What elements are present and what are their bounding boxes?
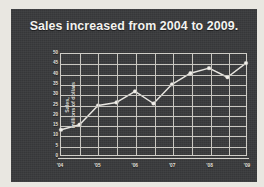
y-axis-tick-label: 20: [53, 113, 58, 118]
grid-line-horizontal: [61, 126, 246, 127]
grid-line-horizontal: [61, 95, 246, 96]
grid-line-vertical: [98, 54, 99, 155]
x-axis-tick-label: '05: [94, 163, 100, 168]
grid-line-vertical: [155, 54, 156, 155]
grid-line-horizontal: [61, 85, 246, 86]
grid-line-horizontal: [61, 136, 246, 137]
grid-line-horizontal: [61, 116, 246, 117]
y-axis-tick-label: 15: [53, 123, 58, 128]
x-axis-tick-label: '06: [132, 163, 138, 168]
line-chart: Sales, millions of dollars 5045403530252…: [60, 53, 247, 156]
y-axis-tick-label: 35: [53, 82, 58, 87]
y-axis-tick-label: 10: [53, 133, 58, 138]
x-axis-tick-label: '04: [57, 163, 63, 168]
y-axis-tick-labels: 50454035302520151050: [45, 53, 58, 156]
x-axis-tick-label: '08: [206, 163, 212, 168]
slide-title: Sales increased from 2004 to 2009.: [11, 19, 257, 33]
y-axis-tick-label: 5: [55, 143, 58, 148]
slide-panel: Sales increased from 2004 to 2009. Sales…: [11, 9, 257, 182]
grid-line-vertical: [192, 54, 193, 155]
series-sales: [61, 54, 246, 155]
grid-line-vertical: [117, 54, 118, 155]
grid-line-vertical: [229, 54, 230, 155]
y-axis-tick-label: 40: [53, 71, 58, 76]
series-line: [61, 63, 246, 130]
grid-line-horizontal: [61, 64, 246, 65]
grid-line-horizontal: [61, 147, 246, 148]
y-axis-tick-label: 45: [53, 61, 58, 66]
slide-canvas: Sales increased from 2004 to 2009. Sales…: [0, 0, 264, 187]
x-axis-tick-label: '09: [244, 163, 250, 168]
x-axis-line: [58, 158, 249, 159]
grid-line-vertical: [173, 54, 174, 155]
data-point-marker: [59, 128, 63, 132]
x-axis: '04'05'06'07'08'09: [60, 156, 247, 174]
y-axis-tick-label: 25: [53, 102, 58, 107]
grid-line-horizontal: [61, 106, 246, 107]
grid-line-vertical: [211, 54, 212, 155]
grid-line-vertical: [136, 54, 137, 155]
grid-line-horizontal: [61, 75, 246, 76]
plot-area: [60, 53, 247, 156]
y-axis-tick-label: 50: [53, 51, 58, 56]
y-axis-tick-label: 30: [53, 92, 58, 97]
x-axis-tick-label: '07: [169, 163, 175, 168]
grid-line-vertical: [80, 54, 81, 155]
